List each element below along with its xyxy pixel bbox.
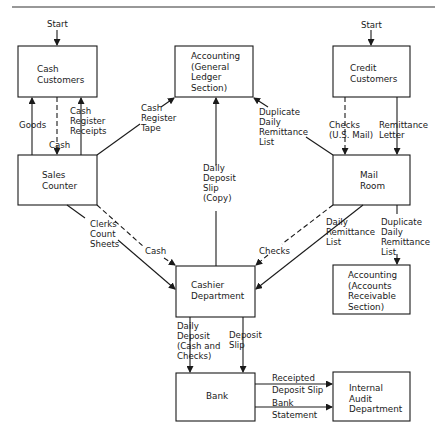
- arrow-cash-to-cashier: [164, 258, 175, 265]
- label-daily-deposit: Daily Deposit (Cash and Checks): [177, 321, 220, 361]
- label-cash-register-receipts: Cash Register Receipts: [70, 106, 107, 136]
- label-deposit-slip: Deposit Slip: [229, 330, 262, 350]
- label-dup-remit-gl: Duplicate Daily Remittance List: [259, 107, 308, 147]
- node-accounting-ar: Accounting (Accounts Receivable Section): [348, 270, 397, 312]
- node-sales-counter: Sales Counter: [42, 170, 77, 191]
- label-cash-register-tape: Cash Register Tape: [141, 103, 176, 133]
- label-start-right: Start: [361, 20, 382, 30]
- label-start-left: Start: [47, 19, 68, 29]
- label-bank-statement: Bank Statement: [272, 397, 317, 421]
- label-cash-sales: Cash: [49, 140, 70, 150]
- label-remittance-letter: Remittance Letter: [379, 120, 428, 140]
- label-goods: Goods: [19, 120, 46, 130]
- node-internal-audit: Internal Audit Department: [349, 383, 402, 415]
- label-clerks-count-sheets: Clerks Count Sheets: [90, 219, 119, 249]
- node-credit-customers: Credit Customers: [350, 63, 397, 84]
- arrow-dup-remit-gl: [254, 98, 268, 107]
- node-cash-customers: Cash Customers: [37, 64, 84, 85]
- node-accounting-gl: Accounting (General Ledger Section): [191, 51, 240, 93]
- arrow-checks-to-cashier: [256, 255, 268, 265]
- label-cash-to-cashier: Cash: [145, 246, 166, 256]
- node-bank: Bank: [206, 391, 228, 402]
- node-mail-room: Mail Room: [360, 170, 385, 191]
- label-receipted-deposit-slip: Receipted Deposit Slip: [272, 372, 323, 396]
- label-daily-remittance-list: Daily Remittance List: [326, 217, 375, 247]
- flowchart-diagram: Cash Customers Accounting (General Ledge…: [0, 0, 442, 439]
- label-checks-to-cashier: Checks: [259, 246, 290, 256]
- label-checks-us-mail: Checks (U.S. Mail): [329, 120, 373, 140]
- label-deposit-slip-copy: Daily Deposit Slip (Copy): [203, 163, 236, 203]
- label-dup-remit-ar: Duplicate Daily Remittance List: [381, 217, 430, 257]
- node-cashier-department: Cashier Department: [191, 280, 244, 301]
- line-clerks-count-upper: [67, 205, 85, 218]
